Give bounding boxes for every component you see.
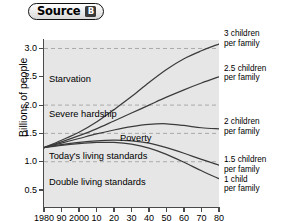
series-label-line1: 1 child bbox=[224, 175, 260, 185]
series-label-line1: 3 children bbox=[224, 29, 260, 39]
x-tick-mark bbox=[43, 208, 44, 212]
x-tick-label: 70 bbox=[196, 214, 206, 221]
series-label-line2: per family bbox=[224, 73, 266, 83]
y-axis-title: Billions of people bbox=[18, 27, 29, 167]
series-label-3: 2 childrenper family bbox=[224, 117, 260, 136]
series-label-line1: 2 children bbox=[224, 117, 260, 127]
series-label-line2: per family bbox=[224, 39, 260, 49]
x-tick-label: 10 bbox=[91, 214, 101, 221]
x-tick-label: 60 bbox=[179, 214, 189, 221]
x-tick-label: 50 bbox=[161, 214, 171, 221]
series-label-line2: per family bbox=[224, 184, 260, 194]
x-tick-mark bbox=[183, 208, 184, 212]
series-label-5: 1 childper family bbox=[224, 175, 260, 194]
x-tick-label: 80 bbox=[214, 214, 224, 221]
series-label-4: 1.5 childrenper family bbox=[224, 155, 266, 174]
x-tick-mark bbox=[131, 208, 132, 212]
series-label-line2: per family bbox=[224, 127, 260, 137]
x-tick-mark bbox=[166, 208, 167, 212]
x-tick-mark bbox=[113, 208, 114, 212]
x-tick-mark bbox=[218, 208, 219, 212]
chart-area: 0.51.01.52.02.53.0 198090200010203040506… bbox=[0, 22, 288, 221]
y-tick-mark bbox=[39, 105, 44, 106]
x-tick-mark bbox=[61, 208, 62, 212]
x-tick-label: 90 bbox=[56, 214, 66, 221]
band-label: Starvation bbox=[49, 75, 91, 84]
x-tick-label: 20 bbox=[109, 214, 119, 221]
series-label-line1: 1.5 children bbox=[224, 155, 266, 165]
x-tick-label: 40 bbox=[144, 214, 154, 221]
source-badge: Source B bbox=[28, 3, 104, 20]
x-tick-mark bbox=[201, 208, 202, 212]
source-letter-badge: B bbox=[85, 6, 96, 17]
x-tick-label: 2000 bbox=[69, 214, 89, 221]
band-label: Severe hardship bbox=[49, 110, 117, 119]
band-label: Today's living standards bbox=[49, 152, 147, 161]
x-tick-label: 30 bbox=[126, 214, 136, 221]
band-label: Poverty bbox=[120, 134, 152, 143]
series-label-1: 3 childrenper family bbox=[224, 29, 260, 48]
series-label-line1: 2.5 children bbox=[224, 64, 266, 74]
y-tick-label: 0.5 bbox=[24, 186, 37, 195]
x-tick-mark bbox=[148, 208, 149, 212]
x-tick-mark bbox=[96, 208, 97, 212]
series-curve-1 bbox=[44, 44, 219, 148]
y-tick-mark bbox=[39, 48, 44, 49]
chart-figure: Source B 0.51.01.52.02.53.0 198090200010… bbox=[0, 0, 288, 221]
series-label-line2: per family bbox=[224, 165, 266, 175]
x-tick-mark bbox=[78, 208, 79, 212]
band-label: Double living standards bbox=[49, 178, 146, 187]
y-tick-mark bbox=[39, 161, 44, 162]
y-tick-mark bbox=[39, 189, 44, 190]
y-tick-mark bbox=[39, 133, 44, 134]
x-tick-label: 1980 bbox=[34, 214, 54, 221]
series-label-2: 2.5 childrenper family bbox=[224, 64, 266, 83]
source-label: Source bbox=[37, 6, 80, 18]
y-axis-line bbox=[43, 39, 44, 208]
y-tick-mark bbox=[39, 76, 44, 77]
